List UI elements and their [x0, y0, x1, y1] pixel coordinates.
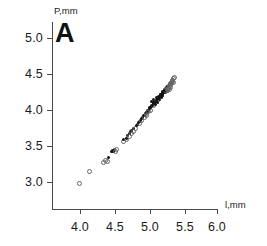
- scatter-point: [159, 93, 162, 96]
- scatter-point: [161, 90, 164, 93]
- scatter-point: [148, 106, 151, 109]
- scatter-point: [170, 79, 175, 84]
- scatter-point: [153, 101, 156, 104]
- y-axis-tick-mark: [47, 110, 52, 111]
- scatter-point: [170, 78, 175, 83]
- y-axis-tick-label: 5.0: [3, 31, 43, 45]
- scatter-point: [155, 96, 158, 99]
- x-axis-tick-label: 6.0: [200, 220, 234, 234]
- scatter-point: [129, 130, 132, 133]
- scatter-point: [146, 110, 149, 113]
- scatter-point: [111, 150, 114, 153]
- scatter-point: [172, 75, 177, 80]
- scatter-point: [114, 147, 119, 152]
- scatter-point: [150, 104, 153, 107]
- scatter-point: [140, 117, 143, 120]
- scatter-point: [133, 126, 138, 131]
- scatter-point: [152, 101, 155, 104]
- scatter-point: [161, 91, 164, 94]
- x-axis-tick-label: 4.0: [63, 220, 97, 234]
- scatter-point: [161, 94, 164, 97]
- scatter-point: [157, 97, 160, 100]
- scatter-point: [131, 129, 136, 134]
- scatter-point: [168, 82, 173, 87]
- y-axis-tick-mark: [47, 38, 52, 39]
- scatter-point: [157, 95, 160, 98]
- scatter-point: [111, 149, 114, 152]
- scatter-point: [105, 159, 110, 164]
- x-axis-tick-mark: [217, 209, 218, 214]
- scatter-point: [157, 96, 160, 99]
- x-axis-title: l,mm: [225, 199, 246, 210]
- scatter-point: [103, 158, 108, 163]
- scatter-point: [144, 113, 149, 118]
- scatter-point: [163, 91, 166, 94]
- scatter-point: [112, 150, 115, 153]
- scatter-point: [135, 124, 138, 127]
- scatter-point: [153, 101, 156, 104]
- scatter-point: [126, 134, 129, 137]
- scatter-point: [168, 85, 173, 90]
- scatter-point: [128, 132, 131, 135]
- scatter-point: [165, 88, 170, 93]
- scatter-point: [136, 123, 139, 126]
- scatter-point: [132, 127, 135, 130]
- scatter-point: [148, 107, 151, 110]
- scatter-point: [146, 109, 149, 112]
- scatter-point: [152, 102, 155, 105]
- scatter-point: [125, 137, 128, 140]
- x-axis-tick-mark: [150, 209, 151, 214]
- scatter-point: [159, 95, 162, 98]
- scatter-point: [139, 119, 142, 122]
- scatter-point: [166, 86, 171, 91]
- y-axis-spine: [52, 22, 53, 210]
- scatter-point: [139, 118, 144, 123]
- scatter-point: [160, 93, 163, 96]
- scatter-point: [156, 101, 159, 104]
- scatter-point: [148, 108, 153, 113]
- x-axis-spine: [52, 209, 218, 210]
- scatter-point: [137, 121, 140, 124]
- scatter-point: [171, 80, 176, 85]
- y-axis-tick-label: 4.0: [3, 103, 43, 117]
- x-axis-tick-mark: [185, 209, 186, 214]
- y-axis-tick-mark: [47, 182, 52, 183]
- scatter-point: [166, 85, 169, 88]
- scatter-point: [162, 90, 165, 93]
- scatter-point: [154, 100, 157, 103]
- scatter-point: [150, 105, 153, 108]
- x-axis-tick-label: 5.5: [168, 220, 202, 234]
- scatter-point: [144, 112, 147, 115]
- scatter-point: [107, 156, 110, 159]
- scatter-point: [163, 89, 166, 92]
- scatter-point: [171, 76, 176, 81]
- scatter-point: [165, 86, 168, 89]
- scatter-point: [77, 181, 82, 186]
- scatter-point: [160, 96, 163, 99]
- scatter-point: [165, 88, 170, 93]
- scatter-point: [168, 81, 173, 86]
- scatter-point: [167, 83, 172, 88]
- scatter-point: [161, 91, 164, 94]
- scatter-point: [121, 139, 126, 144]
- scatter-point: [165, 87, 170, 92]
- x-axis-tick-mark: [80, 209, 81, 214]
- scatter-point: [157, 97, 160, 100]
- scatter-point: [155, 99, 158, 102]
- scatter-point: [151, 103, 156, 108]
- scatter-point: [161, 92, 164, 95]
- scatter-point: [142, 114, 145, 117]
- scatter-point: [146, 109, 151, 114]
- scatter-point: [159, 93, 164, 98]
- scatter-point: [163, 89, 168, 94]
- scatter-point: [164, 87, 167, 90]
- scatter-point: [144, 111, 149, 116]
- scatter-point: [127, 134, 132, 139]
- scatter-point: [155, 98, 160, 103]
- x-axis-tick-mark: [115, 209, 116, 214]
- scatter-point: [169, 81, 174, 86]
- scatter-point: [149, 106, 152, 109]
- scatter-point: [162, 91, 165, 94]
- x-axis-tick-label: 4.5: [98, 220, 132, 234]
- y-axis-tick-mark: [47, 146, 52, 147]
